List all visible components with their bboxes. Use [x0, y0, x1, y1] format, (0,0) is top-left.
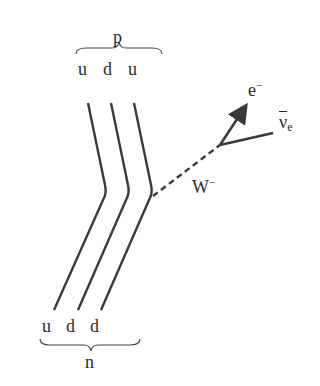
- w-boson-label: W−: [192, 177, 215, 196]
- quark-bottom-2: d: [66, 317, 75, 335]
- quark-top-3: u: [128, 60, 137, 78]
- quark-top-1: u: [78, 60, 87, 78]
- electron-label: e−: [248, 80, 262, 99]
- quark-bottom-3: d: [90, 317, 99, 335]
- neutron-brace: [40, 339, 140, 351]
- quark-bottom-1: u: [42, 317, 51, 335]
- quark-top-2: d: [103, 60, 112, 78]
- proton-label: p: [113, 28, 122, 46]
- antineutrino-label: νe: [279, 113, 292, 133]
- quark-line-2: [78, 103, 129, 310]
- neutron-label: n: [85, 353, 94, 371]
- quark-line-3: [101, 103, 152, 310]
- quark-line-1: [54, 103, 106, 310]
